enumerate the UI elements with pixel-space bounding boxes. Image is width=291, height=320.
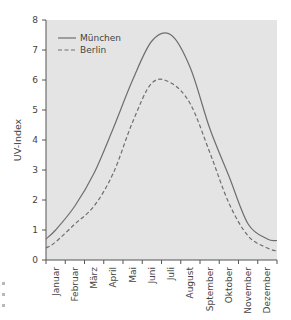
cropped-text-fragment	[2, 282, 6, 312]
y-axis-ticks: 012345678	[32, 15, 46, 265]
y-tick-label: 5	[32, 105, 38, 115]
x-tick-label: April	[108, 267, 118, 288]
y-tick-label: 2	[32, 195, 38, 205]
y-tick-label: 7	[32, 45, 38, 55]
plot-area	[46, 20, 277, 260]
uv-index-chart: 012345678 JanuarFebruarMärzAprilMaiJuniJ…	[0, 0, 291, 320]
x-tick-label: August	[185, 267, 195, 299]
x-tick-label: Juni	[147, 267, 157, 285]
y-tick-label: 1	[32, 225, 38, 235]
y-tick-label: 6	[32, 75, 38, 85]
legend-label-berlin: Berlin	[80, 45, 106, 55]
x-tick-label: November	[243, 267, 253, 314]
y-tick-label: 3	[32, 165, 38, 175]
x-tick-label: Oktober	[224, 267, 234, 304]
x-tick-label: März	[89, 267, 99, 289]
y-axis-title: UV-Index	[12, 118, 23, 161]
x-axis-ticks: JanuarFebruarMärzAprilMaiJuniJuliAugustS…	[46, 260, 277, 314]
y-tick-label: 8	[32, 15, 38, 25]
x-tick-label: Dezember	[262, 267, 272, 314]
legend-label-muenchen: München	[80, 33, 121, 43]
y-tick-label: 4	[32, 135, 38, 145]
x-tick-label: Februar	[70, 267, 80, 302]
x-tick-label: Januar	[51, 267, 61, 297]
x-tick-label: Sptember	[205, 267, 215, 312]
y-tick-label: 0	[32, 255, 38, 265]
x-tick-label: Juli	[166, 267, 176, 281]
x-tick-label: Mai	[128, 267, 138, 283]
